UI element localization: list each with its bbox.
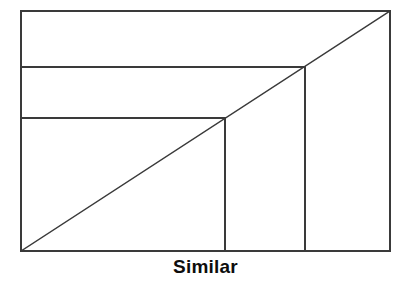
similar-rectangles-figure: Similar (0, 0, 411, 288)
figure-caption: Similar (0, 256, 411, 278)
similar-rectangles-diagram (0, 0, 411, 288)
figure-background (0, 0, 411, 288)
